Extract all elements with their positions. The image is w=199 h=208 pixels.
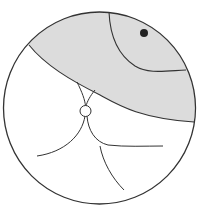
great-circle-arc-right-top <box>86 90 95 106</box>
great-circle-arc-right-bottom <box>87 116 163 146</box>
small-circle <box>80 106 91 117</box>
circular-diagram <box>0 0 199 208</box>
pole-point <box>140 29 148 37</box>
great-circle-arc-lower <box>100 146 124 190</box>
great-circle-arc-left-bottom <box>37 116 85 156</box>
